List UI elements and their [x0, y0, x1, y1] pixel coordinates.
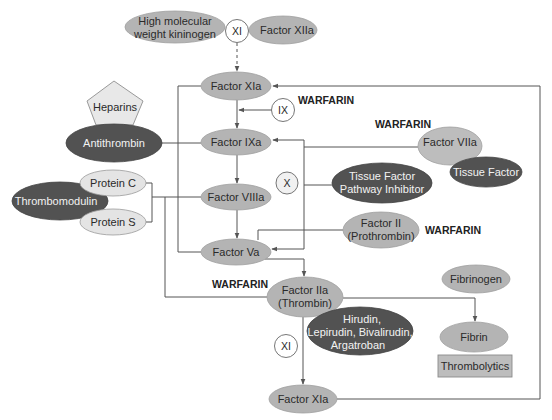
node-label: Factor II — [361, 217, 401, 229]
node-fibrinogen: Fibrinogen — [442, 265, 510, 293]
node-label: Pathway Inhibitor — [340, 183, 425, 195]
node-label: Tissue Factor — [349, 170, 416, 182]
node-high-molecular-weight-kininogen: High molecular weight kininogen — [125, 11, 225, 43]
node-antithrombin: Antithrombin — [66, 124, 162, 162]
node-label: IX — [278, 104, 288, 116]
drug-label-warfarin: WARFARIN — [212, 278, 268, 290]
node-label: (Prothrombin) — [347, 230, 414, 242]
node-label: Factor Va — [213, 246, 261, 258]
drug-label-warfarin: WARFARIN — [298, 94, 354, 106]
node-label: (Thrombin) — [278, 297, 332, 309]
node-label: XI — [232, 25, 242, 37]
node-xi-top: XI — [226, 20, 249, 43]
node-protein-s: Protein S — [80, 209, 146, 235]
node-label: Protein C — [90, 177, 136, 189]
node-label: Factor VIIIa — [208, 191, 266, 203]
node-heparins: Heparins — [87, 81, 143, 125]
node-label: Heparins — [93, 101, 138, 113]
node-label: Hirudin, — [343, 313, 381, 325]
node-label: Thrombolytics — [441, 360, 510, 372]
node-label: Factor XIa — [211, 80, 263, 92]
node-factor-xia-top: Factor XIa — [201, 72, 271, 100]
node-label: XI — [281, 340, 291, 352]
node-label: Factor VIIa — [423, 136, 478, 148]
node-label: Antithrombin — [83, 137, 145, 149]
connector-va-to-iia — [265, 259, 304, 276]
node-label: Factor IIa — [282, 284, 329, 296]
node-factor-ii-prothrombin: Factor II (Prothrombin) — [343, 212, 419, 248]
node-ix: IX — [272, 99, 295, 122]
drug-label-warfarin: WARFARIN — [375, 118, 431, 130]
node-xi-bottom: XI — [275, 335, 298, 358]
node-factor-viiia: Factor VIIIa — [201, 184, 271, 210]
node-label: X — [283, 177, 290, 189]
node-factor-va: Factor Va — [201, 239, 271, 265]
node-direct-thrombin-inhibitors: Hirudin, Lepirudin, Bivalirudin, Argatro… — [307, 307, 413, 355]
node-label: High molecular — [138, 15, 212, 27]
node-factor-ixa: Factor IXa — [201, 129, 271, 155]
node-thrombolytics: Thrombolytics — [438, 355, 512, 377]
node-protein-c: Protein C — [80, 170, 146, 196]
node-label: Protein S — [90, 216, 135, 228]
node-label: weight kininogen — [133, 28, 216, 40]
coagulation-cascade-diagram: High molecular weight kininogen Factor X… — [0, 0, 552, 420]
node-fibrin: Fibrin — [440, 322, 508, 352]
node-label: Thrombomodulin — [15, 195, 98, 207]
node-label: Factor XIIa — [260, 24, 315, 36]
node-label: Tissue Factor — [453, 166, 520, 178]
node-label: Factor IXa — [211, 136, 263, 148]
node-label: Factor XIa — [278, 393, 330, 405]
connector-protein-bracket — [146, 183, 152, 222]
drug-label-warfarin: WARFARIN — [425, 224, 481, 236]
node-x: X — [276, 172, 298, 194]
node-label: Fibrin — [460, 331, 488, 343]
node-label: Lepirudin, Bivalirudin, — [307, 326, 412, 338]
connector-prothrombin-to-va — [258, 230, 343, 240]
node-factor-xiia: Factor XIIa — [249, 16, 317, 44]
node-label: Argatroban — [331, 339, 385, 351]
node-tissue-factor-pathway-inhibitor: Tissue Factor Pathway Inhibitor — [332, 163, 432, 203]
node-tissue-factor: Tissue Factor — [450, 157, 522, 187]
node-factor-xia-bottom: Factor XIa — [269, 385, 337, 413]
connector-xia-to-va — [178, 86, 201, 252]
node-label: Fibrinogen — [450, 273, 502, 285]
